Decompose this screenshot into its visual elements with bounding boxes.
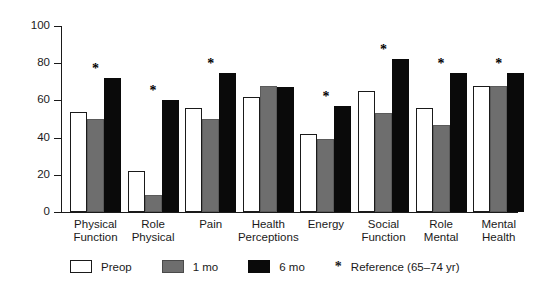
bar-chart: 100806040200 ******* PhysicalFunctionRol… — [0, 0, 537, 294]
legend-item-1mo: 1 mo — [162, 260, 219, 273]
bar-mo1 — [202, 119, 219, 212]
bar-mo1 — [145, 195, 162, 212]
bar-group: * — [128, 26, 179, 212]
legend-label-1mo: 1 mo — [193, 261, 219, 273]
white-square-swatch-icon — [70, 260, 92, 273]
black-square-swatch-icon — [248, 260, 270, 273]
y-axis-tick-label: 20 — [4, 169, 50, 181]
bar-mo6 — [507, 73, 524, 213]
bar-group-bars — [243, 26, 294, 212]
bar-group: * — [358, 26, 409, 212]
bar-mo1 — [260, 86, 277, 212]
reference-asterisk-icon: * — [380, 43, 387, 57]
bar-group-bars — [300, 26, 351, 212]
reference-asterisk-icon: * — [150, 84, 157, 98]
bar-mo6 — [104, 78, 121, 212]
x-axis-label-mental-health: MentalHealth — [461, 218, 536, 244]
bar-mo6 — [277, 87, 294, 212]
bar-mo1 — [87, 119, 104, 212]
reference-asterisk-icon: * — [322, 90, 329, 104]
bar-mo1 — [317, 139, 334, 212]
x-axis-label-line: Perceptions — [231, 231, 306, 244]
bar-mo6 — [450, 73, 467, 213]
bar-group: * — [300, 26, 351, 212]
y-axis-tick-label: 60 — [4, 94, 50, 106]
bar-preop — [185, 108, 202, 212]
x-axis-line — [61, 212, 518, 213]
bar-group-bars — [416, 26, 467, 212]
bar-group: * — [185, 26, 236, 212]
bar-preop — [416, 108, 433, 212]
legend-label-reference: Reference (65–74 yr) — [351, 261, 460, 273]
legend-item-reference: * Reference (65–74 yr) — [335, 261, 460, 273]
y-axis-tick — [54, 212, 62, 213]
x-axis-label-line: Health — [461, 231, 536, 244]
bar-mo6 — [392, 59, 409, 212]
bar-preop — [473, 86, 490, 212]
bar-group: * — [416, 26, 467, 212]
y-axis-tick — [54, 63, 62, 64]
bar-mo1 — [433, 125, 450, 212]
y-axis-tick — [54, 175, 62, 176]
bar-group — [243, 26, 294, 212]
y-axis-tick — [54, 26, 62, 27]
plot-area: ******* — [62, 26, 517, 212]
bar-group-bars — [473, 26, 524, 212]
bar-group-bars — [128, 26, 179, 212]
reference-asterisk-icon: * — [438, 57, 445, 71]
bar-preop — [243, 97, 260, 212]
legend-label-6mo: 6 mo — [279, 261, 305, 273]
bar-preop — [358, 91, 375, 212]
bar-mo6 — [219, 73, 236, 213]
bar-mo6 — [334, 106, 351, 212]
reference-asterisk-icon: * — [495, 57, 502, 71]
reference-asterisk-icon: * — [207, 57, 214, 71]
bar-group-bars — [70, 26, 121, 212]
bar-mo1 — [490, 86, 507, 212]
y-axis-tick-label: 100 — [4, 20, 50, 32]
bar-group: * — [70, 26, 121, 212]
bar-mo1 — [375, 113, 392, 212]
legend-item-preop: Preop — [70, 260, 132, 273]
reference-asterisk-icon: * — [92, 62, 99, 76]
y-axis-tick — [54, 138, 62, 139]
y-axis-tick-label: 80 — [4, 57, 50, 69]
bar-preop — [128, 171, 145, 212]
y-axis-tick-label: 0 — [4, 206, 50, 218]
bar-preop — [70, 112, 87, 212]
gray-square-swatch-icon — [162, 260, 184, 273]
x-axis-label-line: Physical — [116, 231, 191, 244]
bar-mo6 — [162, 100, 179, 212]
legend-label-preop: Preop — [101, 261, 132, 273]
bar-group: * — [473, 26, 524, 212]
bar-group-bars — [185, 26, 236, 212]
y-axis-tick-label: 40 — [4, 132, 50, 144]
x-axis-label-line: Mental — [461, 218, 536, 231]
bar-preop — [300, 134, 317, 212]
asterisk-icon: * — [335, 261, 342, 272]
legend-item-6mo: 6 mo — [248, 260, 305, 273]
chart-legend: Preop 1 mo 6 mo * Reference (65–74 yr) — [70, 260, 490, 273]
y-axis-tick — [54, 100, 62, 101]
